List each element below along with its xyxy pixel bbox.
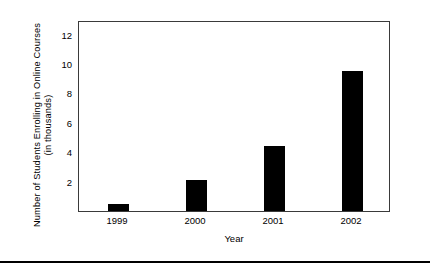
- bottom-divider-rule: [0, 261, 430, 263]
- bars-layer: [79, 22, 389, 211]
- x-axis-tick-label: 2002: [321, 215, 381, 227]
- y-axis-title-line-1: Number of Students Enrolling in Online C…: [32, 23, 43, 227]
- bar: [264, 146, 285, 211]
- x-axis-title: Year: [78, 233, 390, 244]
- y-axis-tick-label: 6: [52, 119, 72, 129]
- x-axis-tick-label: 1999: [87, 215, 147, 227]
- x-axis-tick-label: 2000: [165, 215, 225, 227]
- plot-area: [78, 21, 390, 212]
- x-axis-tick-label: 2001: [243, 215, 303, 227]
- x-axis-tick-labels: 1999200020012002: [78, 215, 390, 229]
- y-axis-tick-label: 12: [52, 31, 72, 41]
- bar: [108, 204, 129, 211]
- bar: [342, 71, 363, 211]
- y-axis-tick-label: 2: [52, 178, 72, 188]
- bar: [186, 180, 207, 211]
- bar-chart-figure: Number of Students Enrolling in Online C…: [0, 0, 430, 269]
- y-axis-tick-label: 8: [52, 89, 72, 99]
- y-axis-tick-label: 10: [52, 60, 72, 70]
- y-axis-tick-labels: 24681012: [50, 0, 72, 269]
- y-axis-tick-label: 4: [52, 148, 72, 158]
